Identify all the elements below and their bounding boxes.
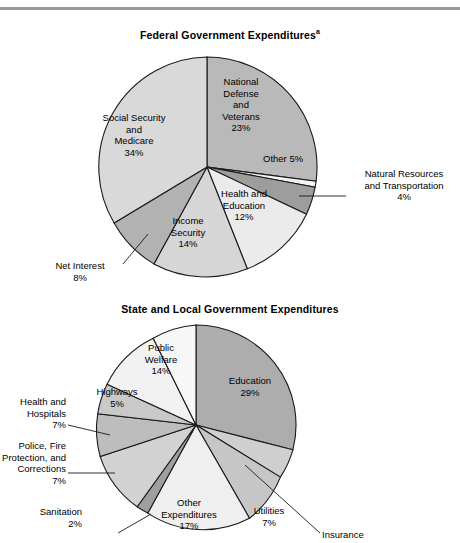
label-public-welfare: Public Welfare 14% [128, 342, 194, 377]
label-other: Other 5% [263, 153, 333, 165]
label-utilities: Utilities 7% [243, 505, 295, 528]
label-net-interest: Net Interest 8% [38, 260, 122, 283]
label-income-security: Income Security 14% [155, 215, 221, 250]
header-rule [0, 7, 460, 10]
label-health-hospitals: Health and Hospitals 7% [0, 396, 66, 431]
label-other-expenditures: Other Expenditures 17% [141, 497, 237, 532]
chart-title-federal: Federal Government Expendituresa [0, 28, 460, 41]
pie-chart-state-local: Public Welfare 14% Education 29% Highway… [0, 318, 460, 543]
label-education: Education 29% [212, 375, 288, 398]
label-police-fire: Police, Fire Protection, and Corrections… [0, 440, 66, 486]
label-sanitation: Sanitation 2% [14, 506, 82, 529]
label-national-defense: National Defense and Veterans 23% [198, 76, 284, 134]
chart-title-state-text: State and Local Government Expenditures [121, 303, 339, 315]
pie-chart-federal: National Defense and Veterans 23% Social… [0, 40, 460, 298]
chart-title-federal-superscript: a [316, 28, 320, 35]
chart-title-federal-text: Federal Government Expenditures [140, 29, 316, 41]
label-social-security: Social Security and Medicare 34% [82, 112, 186, 158]
label-natural-resources: Natural Resources and Transportation 4% [348, 168, 460, 203]
label-insurance: Insurance [322, 529, 402, 541]
chart-title-state: State and Local Government Expenditures [0, 303, 460, 315]
label-highways: Highways 5% [86, 386, 148, 409]
